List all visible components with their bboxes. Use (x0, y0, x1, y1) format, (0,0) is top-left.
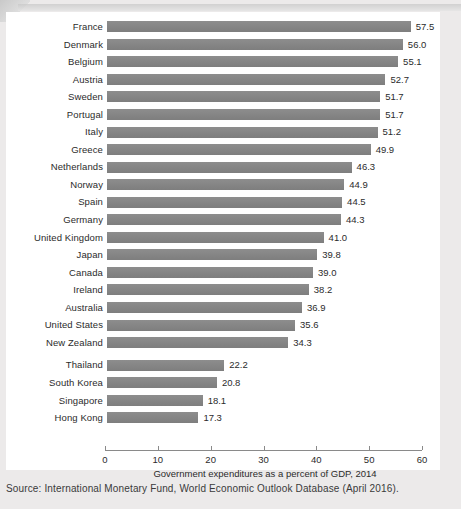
bar-value-label: 44.9 (349, 180, 368, 190)
bar (107, 179, 344, 190)
bar-row: Australia36.9 (6, 299, 440, 317)
x-axis-tick-label: 0 (102, 454, 107, 465)
bar-track: 39.0 (107, 264, 440, 282)
bar (107, 162, 352, 173)
category-label: Hong Kong (6, 413, 107, 423)
bar (107, 412, 198, 423)
bar-row: United States35.6 (6, 316, 440, 334)
bar-track: 22.2 (107, 356, 440, 374)
category-label: Singapore (6, 396, 107, 406)
bar-track: 51.7 (107, 106, 440, 124)
bar-value-label: 55.1 (403, 57, 422, 67)
x-axis-tick (369, 446, 370, 450)
bar-row: New Zealand34.3 (6, 334, 440, 352)
bar-row: Greece49.9 (6, 141, 440, 159)
bar (107, 197, 342, 208)
category-label: United Kingdom (6, 233, 107, 243)
category-label: Netherlands (6, 162, 107, 172)
x-axis-title: Government expenditures as a percent of … (6, 468, 440, 479)
x-axis-tick (105, 446, 106, 450)
bar-row: Denmark56.0 (6, 36, 440, 54)
bar-track: 38.2 (107, 281, 440, 299)
x-axis-tick-label: 20 (205, 454, 216, 465)
category-label: Germany (6, 215, 107, 225)
bar-value-label: 20.8 (222, 378, 241, 388)
bar-track: 36.9 (107, 299, 440, 317)
bar-track: 46.3 (107, 158, 440, 176)
bar (107, 74, 385, 85)
bar (107, 21, 411, 32)
bar-row: United Kingdom41.0 (6, 229, 440, 247)
category-label: Ireland (6, 285, 107, 295)
bar-track: 34.3 (107, 334, 440, 352)
bar-row: Canada39.0 (6, 264, 440, 282)
bar-track: 57.5 (107, 18, 440, 36)
bar-track: 51.7 (107, 88, 440, 106)
bar-row: Netherlands46.3 (6, 158, 440, 176)
bar (107, 377, 217, 388)
category-label: South Korea (6, 378, 107, 388)
x-axis-tick-label: 40 (311, 454, 322, 465)
bar-row: France57.5 (6, 18, 440, 36)
bar-track: 51.2 (107, 123, 440, 141)
bar-value-label: 18.1 (208, 396, 227, 406)
bar-row: Portugal51.7 (6, 106, 440, 124)
category-label: France (6, 22, 107, 32)
bar (107, 214, 341, 225)
bar-value-label: 49.9 (376, 145, 395, 155)
source-note: Source: International Monetary Fund, Wor… (6, 483, 399, 494)
bar-track: 49.9 (107, 141, 440, 159)
bar (107, 127, 378, 138)
bar-value-label: 17.3 (203, 413, 222, 423)
category-label: Belgium (6, 57, 107, 67)
bar-row: Italy51.2 (6, 123, 440, 141)
bar-row: Norway44.9 (6, 176, 440, 194)
category-label: New Zealand (6, 338, 107, 348)
bar (107, 302, 302, 313)
bar-value-label: 51.7 (385, 110, 404, 120)
bar-value-label: 57.5 (416, 22, 435, 32)
bar (107, 320, 295, 331)
bar-row: Austria52.7 (6, 71, 440, 89)
bar-value-label: 52.7 (390, 75, 409, 85)
bar-row: Japan39.8 (6, 246, 440, 264)
bar-track: 41.0 (107, 229, 440, 247)
bar-row: South Korea20.8 (6, 374, 440, 392)
bar-value-label: 46.3 (357, 162, 376, 172)
bar-row: Sweden51.7 (6, 88, 440, 106)
x-axis-tick-label: 60 (417, 454, 428, 465)
category-label: Japan (6, 250, 107, 260)
bar (107, 284, 309, 295)
bar-row: Thailand22.2 (6, 356, 440, 374)
bar (107, 395, 203, 406)
category-label: Austria (6, 75, 107, 85)
bar (107, 267, 313, 278)
category-label: Sweden (6, 92, 107, 102)
x-axis-tick (158, 446, 159, 450)
bar-row: Hong Kong17.3 (6, 409, 440, 427)
category-label: Thailand (6, 360, 107, 370)
category-label: United States (6, 320, 107, 330)
bar-track: 35.6 (107, 316, 440, 334)
bar (107, 337, 288, 348)
bar (107, 109, 380, 120)
bar-row: Germany44.3 (6, 211, 440, 229)
category-label: Australia (6, 303, 107, 313)
x-axis-tick (316, 446, 317, 450)
x-axis-tick (211, 446, 212, 450)
category-label: Portugal (6, 110, 107, 120)
category-label: Norway (6, 180, 107, 190)
bar (107, 360, 224, 371)
page-top-shading (18, 4, 461, 11)
bar-row: Ireland38.2 (6, 281, 440, 299)
bar (107, 249, 317, 260)
x-axis-tick (422, 446, 423, 450)
bar-track: 55.1 (107, 53, 440, 71)
bar-track: 39.8 (107, 246, 440, 264)
category-label: Greece (6, 145, 107, 155)
bar (107, 56, 398, 67)
bar-track: 44.9 (107, 176, 440, 194)
bar-track: 20.8 (107, 374, 440, 392)
bar-chart-panel: France57.5Denmark56.0Belgium55.1Austria5… (6, 12, 440, 470)
bar-value-label: 34.3 (293, 338, 312, 348)
